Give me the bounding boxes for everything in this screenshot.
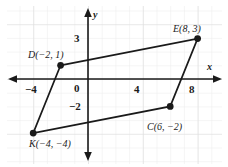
- x-tick-label-8: 8: [189, 84, 195, 95]
- vertex-point-c: [167, 103, 174, 110]
- x-tick-label-4: 4: [134, 84, 140, 95]
- vertex-label-d: D(−2, 1): [28, 50, 64, 60]
- x-axis-name: x: [207, 62, 212, 72]
- vertex-point-k: [30, 130, 37, 137]
- origin-label: 0: [74, 83, 80, 94]
- y-tick-label-3: 3: [74, 33, 80, 44]
- y-tick-label-neg2: −2: [69, 101, 81, 112]
- coordinate-plane-figure: −4 4 8 0 3 −2 x y D(−2, 1) E(8, 3) C(6, …: [0, 0, 228, 167]
- x-tick-label-neg4: −4: [25, 84, 37, 95]
- vertex-point-d: [57, 62, 64, 69]
- vertex-label-c: C(6, −2): [147, 122, 182, 132]
- y-axis-name: y: [93, 10, 97, 20]
- vertex-point-e: [194, 35, 201, 42]
- vertex-label-e: E(8, 3): [173, 24, 201, 34]
- vertex-label-k: K(−4, −4): [29, 139, 71, 149]
